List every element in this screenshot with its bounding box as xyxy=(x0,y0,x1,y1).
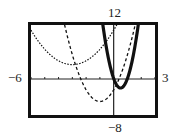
graph-window xyxy=(0,0,178,136)
